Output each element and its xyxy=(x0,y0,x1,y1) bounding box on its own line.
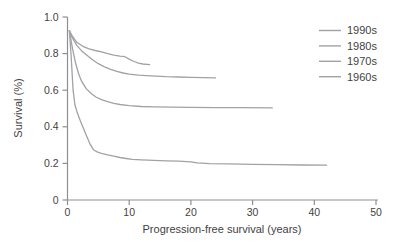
y-tick-label: 0.6 xyxy=(44,84,59,96)
legend-label-1970s: 1970s xyxy=(347,55,377,67)
x-tick-label: 50 xyxy=(370,206,382,218)
x-axis-title: Progression-free survival (years) xyxy=(143,223,302,235)
legend-label-1990s: 1990s xyxy=(347,24,377,36)
x-tick-label: 0 xyxy=(65,206,71,218)
legend-label-1960s: 1960s xyxy=(347,71,377,83)
series-line-1980s xyxy=(69,31,215,78)
y-axis-title: Survival (%) xyxy=(12,78,24,137)
legend-label-1980s: 1980s xyxy=(347,40,377,52)
x-tick-label: 10 xyxy=(123,206,135,218)
series-line-1990s xyxy=(69,31,149,65)
y-tick-label: 0.4 xyxy=(44,120,59,132)
y-tick-label: 0.2 xyxy=(44,157,59,169)
survival-chart: 0102030405000.20.40.60.81.01990s1980s197… xyxy=(0,0,403,251)
y-tick-label: 0.8 xyxy=(44,47,59,59)
y-tick-label: 1.0 xyxy=(44,11,59,23)
y-tick-label: 0 xyxy=(53,194,59,206)
survival-figure: 0102030405000.20.40.60.81.01990s1980s197… xyxy=(0,0,403,251)
series-line-1960s xyxy=(69,31,326,166)
x-tick-label: 30 xyxy=(247,206,259,218)
x-tick-label: 20 xyxy=(185,206,197,218)
x-tick-label: 40 xyxy=(308,206,320,218)
series-line-1970s xyxy=(69,31,272,108)
